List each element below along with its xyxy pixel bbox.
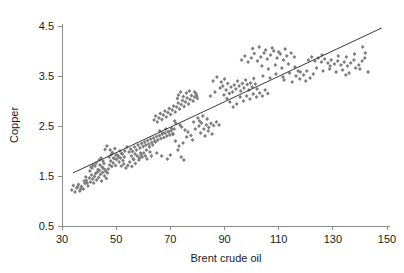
data-point — [240, 82, 244, 86]
data-point — [196, 116, 200, 120]
data-point — [128, 160, 132, 164]
data-point — [88, 169, 92, 173]
data-point — [308, 76, 312, 80]
data-point — [229, 85, 233, 89]
data-point — [245, 83, 249, 87]
data-point — [259, 55, 263, 59]
data-point — [294, 74, 298, 78]
data-point — [184, 91, 188, 95]
data-point — [235, 102, 239, 106]
data-point — [263, 88, 267, 92]
data-point — [248, 97, 252, 101]
data-point — [89, 180, 93, 184]
y-axis-title: Copper — [8, 107, 20, 143]
data-point — [154, 114, 158, 118]
data-point — [274, 72, 278, 76]
data-point — [173, 110, 177, 114]
data-point — [290, 80, 294, 84]
x-tick-label: 50 — [110, 233, 122, 245]
data-point — [298, 77, 302, 81]
data-point — [326, 61, 330, 65]
data-point — [320, 60, 324, 64]
data-point — [283, 47, 287, 51]
data-point — [175, 97, 179, 101]
data-point — [201, 114, 205, 118]
data-point — [211, 79, 215, 83]
data-point — [336, 59, 340, 63]
data-point — [133, 162, 137, 166]
data-point — [274, 63, 278, 67]
data-point — [181, 95, 185, 99]
data-point — [246, 60, 250, 64]
data-point — [127, 150, 131, 154]
data-point — [135, 148, 139, 152]
data-point — [281, 75, 285, 79]
data-point — [328, 67, 332, 71]
data-point — [217, 123, 221, 127]
data-point — [92, 181, 96, 185]
data-point — [199, 131, 203, 135]
data-point — [221, 84, 225, 88]
x-tick-label: 90 — [218, 233, 230, 245]
data-point — [292, 55, 296, 59]
data-point — [258, 91, 262, 95]
data-point — [363, 51, 367, 55]
data-point — [329, 58, 333, 62]
data-point — [234, 87, 238, 91]
data-point — [144, 154, 148, 158]
data-point — [224, 88, 228, 92]
data-point — [192, 120, 196, 124]
data-point — [256, 59, 260, 63]
data-point — [202, 127, 206, 131]
data-point — [349, 61, 353, 65]
data-point — [244, 78, 248, 82]
data-point — [206, 129, 210, 133]
scatter-plot-figure: 0.51.52.53.54.5 30507090110130150 Brent … — [0, 0, 404, 273]
data-point — [214, 120, 218, 124]
data-point — [148, 150, 152, 154]
data-point — [272, 49, 276, 53]
data-point — [117, 160, 121, 164]
data-point — [183, 128, 187, 132]
data-point — [187, 102, 191, 106]
data-point — [269, 53, 273, 57]
data-point — [255, 95, 259, 99]
data-point — [265, 57, 269, 61]
data-point — [342, 60, 346, 64]
data-point — [361, 45, 365, 49]
data-point — [114, 164, 118, 168]
data-point — [149, 154, 153, 158]
data-point — [249, 56, 253, 60]
data-point — [174, 139, 178, 143]
data-point — [205, 117, 209, 121]
data-point — [100, 179, 104, 183]
x-tick-label: 150 — [378, 233, 396, 245]
data-point — [213, 90, 217, 94]
data-point — [336, 54, 340, 58]
data-point — [169, 113, 173, 117]
data-point — [179, 90, 183, 94]
x-tick-label: 130 — [324, 233, 342, 245]
data-point — [354, 66, 358, 70]
data-point — [287, 62, 291, 66]
data-point — [323, 57, 327, 61]
data-point — [261, 74, 265, 78]
data-point — [344, 73, 348, 77]
data-point — [186, 130, 190, 134]
data-point — [228, 100, 232, 104]
data-point — [165, 157, 169, 161]
data-point — [251, 47, 255, 51]
data-point — [222, 93, 226, 97]
data-point — [178, 107, 182, 111]
data-point — [239, 89, 243, 93]
data-point — [193, 127, 197, 131]
data-point — [122, 155, 126, 159]
data-point — [108, 148, 112, 152]
data-point — [305, 69, 309, 73]
data-point — [261, 94, 265, 98]
y-tick-label: 1.5 — [39, 170, 54, 182]
data-point — [204, 123, 208, 127]
data-point — [366, 70, 370, 74]
data-point — [121, 159, 125, 163]
data-point — [210, 132, 214, 136]
